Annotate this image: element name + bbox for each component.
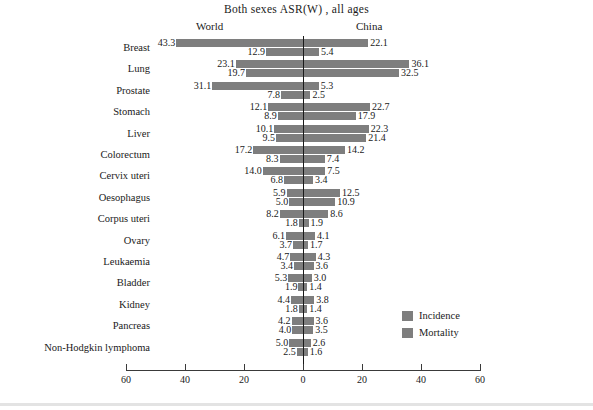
bar-value-label: 14.0	[240, 166, 263, 175]
diverging-bar-chart: Both sexes ASR(W) , all ages World China…	[0, 0, 593, 410]
chart-row: Prostate31.17.85.32.5	[0, 81, 593, 102]
bar-left-mortality	[280, 91, 303, 99]
bar-value-label: 1.6	[309, 347, 324, 356]
bar-left-mortality	[296, 348, 303, 356]
category-label: Ovary	[0, 235, 150, 246]
bar-value-label: 12.9	[243, 47, 266, 56]
bar-value-label: 43.3	[153, 38, 176, 47]
bar-value-label: 5.4	[320, 47, 335, 56]
bar-value-label: 4.0	[269, 325, 292, 334]
bar-left-incidence	[291, 317, 303, 325]
chart-row: Oesophagus5.95.012.510.9	[0, 188, 593, 209]
bar-value-label: 21.4	[367, 133, 387, 142]
category-label: Pancreas	[0, 320, 150, 331]
bar-value-label: 1.7	[309, 240, 324, 249]
x-axis-tick-label: 20	[357, 374, 367, 385]
bar-right-incidence	[303, 317, 314, 325]
bar-value-label: 1.8	[276, 218, 299, 227]
x-axis-tick	[303, 364, 304, 371]
category-label: Prostate	[0, 85, 150, 96]
bar-right-mortality	[303, 262, 314, 270]
chart-row: Cervix uteri14.06.87.53.4	[0, 166, 593, 187]
bar-value-label: 2.5	[274, 347, 297, 356]
bar-value-label: 3.4	[271, 261, 294, 270]
bar-value-label: 3.6	[315, 261, 330, 270]
bar-left-incidence	[211, 82, 303, 90]
legend-label: Mortality	[419, 327, 459, 338]
bar-value-label: 22.1	[369, 38, 389, 47]
bar-value-label: 7.4	[326, 154, 341, 163]
x-axis-tick	[480, 364, 481, 371]
plot-area: Breast43.312.922.15.4Lung23.119.736.132.…	[0, 36, 593, 370]
chart-row: Kidney4.41.83.81.4	[0, 295, 593, 316]
bar-right-mortality	[303, 198, 335, 206]
bar-value-label: 1.8	[276, 304, 299, 313]
category-label: Breast	[0, 42, 150, 53]
category-label: Non-Hodgkin lymphoma	[0, 342, 150, 353]
chart-row: Ovary6.13.74.11.7	[0, 231, 593, 252]
chart-row: Non-Hodgkin lymphoma5.02.52.61.6	[0, 338, 593, 359]
scan-artifact	[0, 403, 593, 406]
chart-row: Liver10.19.522.321.4	[0, 124, 593, 145]
bar-left-incidence	[286, 189, 303, 197]
bar-value-label: 3.7	[270, 240, 293, 249]
bar-value-label: 3.4	[314, 175, 329, 184]
bar-value-label: 17.2	[230, 145, 253, 154]
bar-left-incidence	[175, 39, 303, 47]
chart-row: Breast43.312.922.15.4	[0, 38, 593, 59]
chart-row: Stomach12.18.922.717.9	[0, 102, 593, 123]
legend-item: Incidence	[402, 310, 460, 321]
bar-value-label: 2.5	[311, 90, 326, 99]
bar-left-mortality	[265, 48, 303, 56]
x-axis-tick-label: 40	[416, 374, 426, 385]
category-label: Colorectum	[0, 149, 150, 160]
x-axis-tick-label: 60	[475, 374, 485, 385]
bar-right-mortality	[303, 155, 325, 163]
bar-left-mortality	[279, 155, 303, 163]
bar-left-mortality	[277, 112, 303, 120]
legend-item: Mortality	[402, 327, 460, 338]
x-axis-tick-label: 40	[180, 374, 190, 385]
chart-row: Bladder5.31.93.01.4	[0, 273, 593, 294]
bar-value-label: 1.4	[308, 282, 323, 291]
x-axis-tick	[126, 364, 127, 371]
bar-value-label: 8.2	[257, 209, 280, 218]
category-label: Bladder	[0, 277, 150, 288]
bar-right-mortality	[303, 134, 366, 142]
bar-right-incidence	[303, 189, 340, 197]
bar-left-mortality	[275, 134, 303, 142]
bar-left-mortality	[283, 176, 303, 184]
chart-row: Leukaemia4.73.44.33.6	[0, 252, 593, 273]
legend-swatch	[402, 328, 413, 338]
x-axis-tick	[244, 364, 245, 371]
bar-value-label: 1.9	[275, 282, 298, 291]
bar-value-label: 32.5	[400, 68, 420, 77]
bar-value-label: 1.9	[310, 218, 325, 227]
bar-value-label: 17.9	[357, 111, 377, 120]
bar-left-mortality	[245, 69, 303, 77]
legend-label: Incidence	[419, 310, 460, 321]
bar-left-mortality	[288, 198, 303, 206]
chart-row: Corpus uteri8.21.88.61.9	[0, 209, 593, 230]
bar-right-incidence	[303, 60, 409, 68]
x-axis-tick-label: 20	[239, 374, 249, 385]
x-axis-tick-label: 0	[301, 374, 306, 385]
bar-value-label: 3.5	[314, 325, 329, 334]
bar-value-label: 14.2	[346, 145, 366, 154]
x-axis-tick	[185, 364, 186, 371]
bar-right-incidence	[303, 39, 368, 47]
bar-right-incidence	[303, 125, 369, 133]
bar-value-label: 8.6	[329, 209, 344, 218]
bar-value-label: 31.1	[189, 81, 212, 90]
category-label: Lung	[0, 63, 150, 74]
chart-legend: IncidenceMortality	[402, 310, 460, 344]
x-axis-tick	[362, 364, 363, 371]
bar-left-incidence	[273, 125, 303, 133]
chart-row: Pancreas4.24.03.63.5	[0, 316, 593, 337]
category-label: Liver	[0, 128, 150, 139]
chart-row: Colorectum17.28.314.27.4	[0, 145, 593, 166]
bar-left-incidence	[235, 60, 303, 68]
chart-row: Lung23.119.736.132.5	[0, 59, 593, 80]
legend-swatch	[402, 311, 413, 321]
right-panel-label: China	[356, 20, 382, 32]
